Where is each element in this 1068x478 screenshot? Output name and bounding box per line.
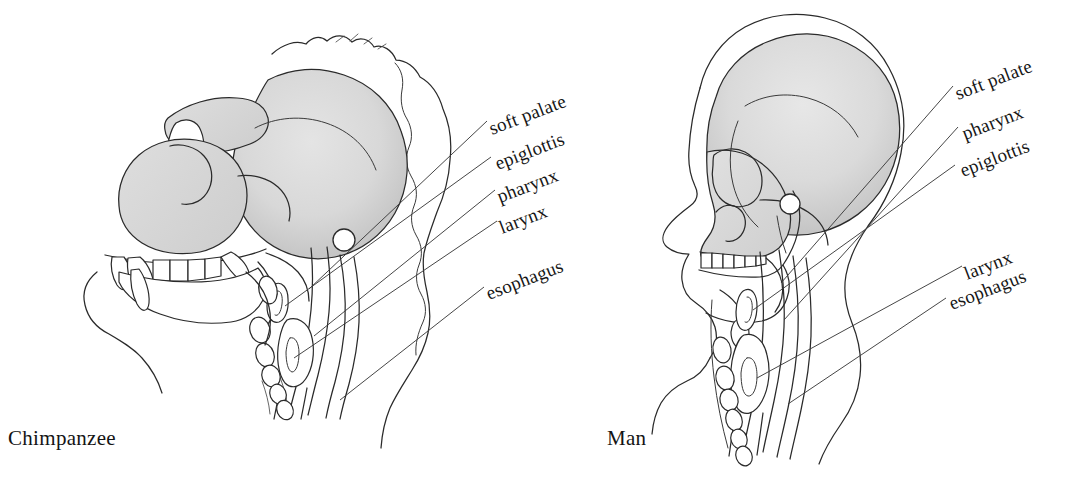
man-panel xyxy=(652,14,962,468)
caption-man: Man xyxy=(607,426,647,450)
leader-larynx xyxy=(757,266,962,378)
man-label-pharynx: pharynx xyxy=(959,101,1026,144)
chimp-esophagus xyxy=(326,255,345,418)
vocal-tract-comparison-figure: soft palate epiglottis pharynx larynx es… xyxy=(0,0,1068,478)
chimp-muzzle xyxy=(119,139,247,254)
man-label-soft-palate: soft palate xyxy=(952,55,1035,104)
chimp-esophagus-back xyxy=(340,257,359,419)
chimp-label-esophagus: esophagus xyxy=(483,255,566,304)
man-esophagus xyxy=(777,256,798,457)
chimp-hyoid-bone xyxy=(333,229,355,251)
man-mandibular-condyle xyxy=(780,194,800,214)
caption-chimpanzee: Chimpanzee xyxy=(8,426,116,450)
figure-canvas: soft palate epiglottis pharynx larynx es… xyxy=(0,0,1068,478)
chimp-larynx xyxy=(278,319,314,387)
man-soft-palate xyxy=(766,258,783,312)
leader-esophagus xyxy=(340,287,484,400)
chimp-hairline-contour xyxy=(395,63,425,355)
chimpanzee-panel xyxy=(84,34,497,448)
chimp-label-larynx: larynx xyxy=(496,200,550,238)
chimpanzee-labels: soft palate epiglottis pharynx larynx es… xyxy=(483,90,569,304)
chimp-cranium xyxy=(232,69,407,258)
man-labels: soft palate pharynx epiglottis larynx es… xyxy=(946,55,1035,314)
man-jaw-neck-line xyxy=(652,358,710,434)
